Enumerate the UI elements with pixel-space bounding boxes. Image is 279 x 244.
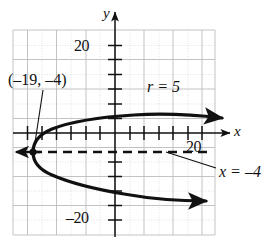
y-axis-label: y bbox=[103, 6, 110, 21]
math-graph-figure: (–19, –4) r = 5 x = –4 20 –20 20 x y bbox=[0, 0, 279, 244]
directrix-label: x = –4 bbox=[219, 164, 261, 180]
vertex-point-marker bbox=[29, 148, 36, 155]
y-tick-label-negative-20: –20 bbox=[66, 210, 89, 226]
radius-label: r = 5 bbox=[147, 79, 180, 95]
y-tick-label-20: 20 bbox=[74, 38, 89, 54]
vertex-label: (–19, –4) bbox=[8, 72, 67, 88]
parabola-curve bbox=[33, 114, 222, 201]
graph-canvas bbox=[0, 0, 279, 244]
x-tick-label-20: 20 bbox=[186, 139, 201, 155]
x-axis-label: x bbox=[234, 124, 241, 139]
